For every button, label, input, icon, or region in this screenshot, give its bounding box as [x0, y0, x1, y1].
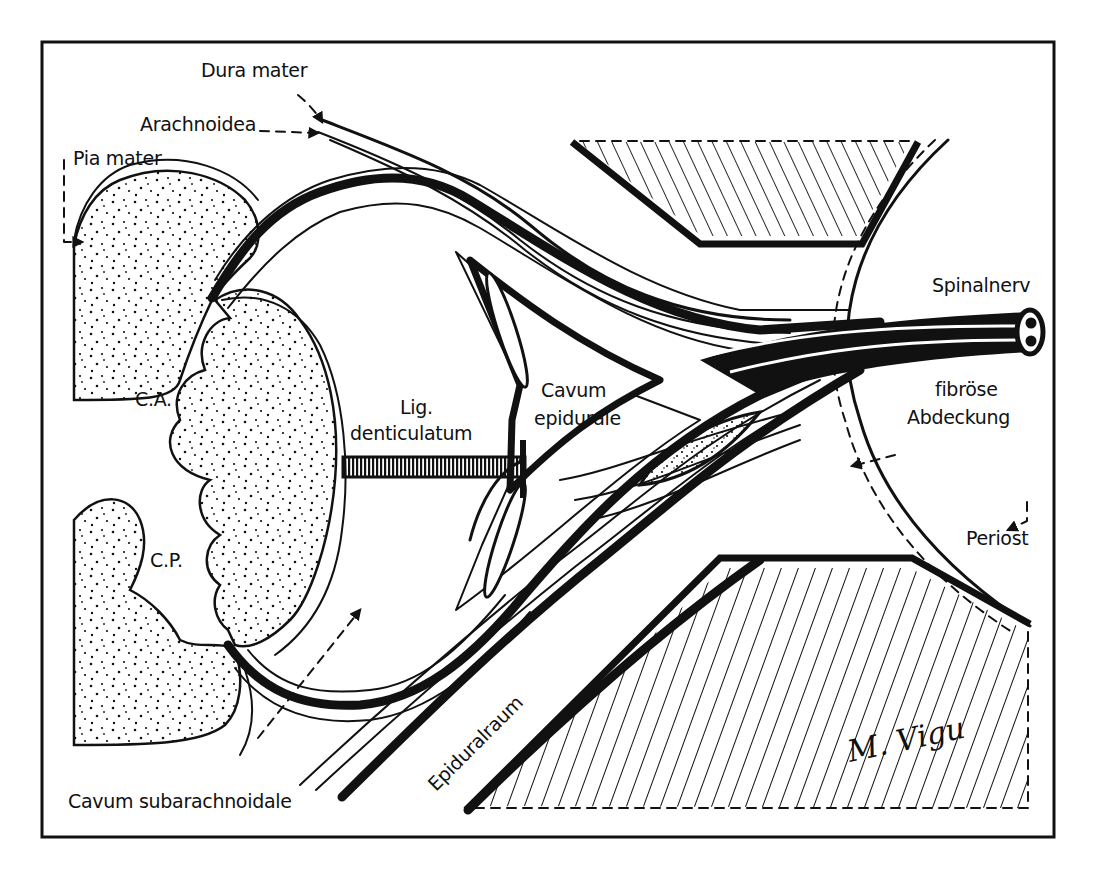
- label-periost: Periost: [966, 527, 1028, 549]
- label-spinalnerv: Spinalnerv: [932, 274, 1030, 296]
- label-fibrose-line2: Abdeckung: [907, 406, 1010, 428]
- label-dura-mater: Dura mater: [201, 59, 308, 81]
- label-ca: C.A.: [135, 388, 172, 410]
- label-pia-mater: Pia mater: [73, 147, 162, 169]
- label-cavum-epidurale-line2: epidurale: [534, 407, 621, 429]
- spinal-meninges-diagram: Dura mater Arachnoidea Pia mater Spinaln…: [0, 0, 1103, 872]
- label-cavum-epidurale-line1: Cavum: [541, 379, 606, 401]
- spinal-cord: [74, 160, 346, 755]
- label-lig-line1: Lig.: [400, 396, 433, 418]
- label-cavum-subarachnoidale: Cavum subarachnoidale: [68, 790, 292, 812]
- ligamentum-denticulatum: [343, 440, 526, 498]
- label-lig-line2: denticulatum: [350, 422, 472, 444]
- label-cp: C.P.: [150, 549, 183, 571]
- label-arachnoidea: Arachnoidea: [140, 113, 256, 135]
- label-fibrose-line1: fibröse: [935, 378, 998, 400]
